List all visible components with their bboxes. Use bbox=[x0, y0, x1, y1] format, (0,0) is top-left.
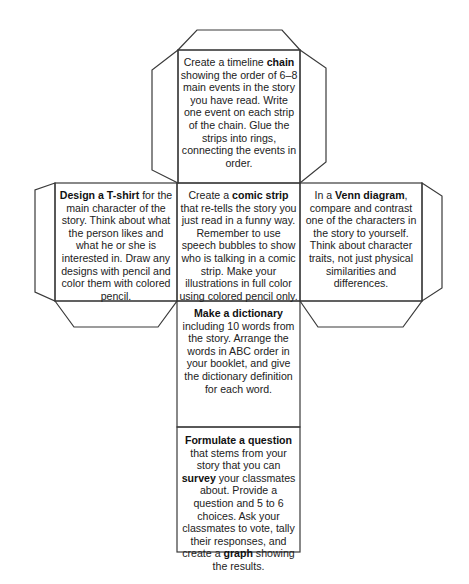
face-text: including 10 words from the story. Arran… bbox=[183, 320, 295, 395]
face-keyword: chain bbox=[267, 56, 295, 68]
face-text: Create a timeline bbox=[184, 56, 267, 68]
venn-diagram-face: In a Venn diagram, compare and contrast … bbox=[303, 185, 419, 301]
face-keyword: Design a T-shirt bbox=[60, 189, 139, 201]
top-left-flap bbox=[152, 50, 178, 183]
face-text: for the main character of the story. Thi… bbox=[61, 189, 172, 302]
face-keyword: comic strip bbox=[232, 189, 289, 201]
face-text: showing the order of 6–8 main events in … bbox=[181, 69, 298, 169]
comic-strip-face: Create a comic strip that re-tells the s… bbox=[177, 185, 300, 301]
face-text: In a bbox=[314, 189, 335, 201]
face-text: that re-tells the story you just read in… bbox=[179, 202, 297, 302]
dictionary-face: Make a dictionary including 10 words fro… bbox=[180, 303, 297, 427]
face-text: Create a bbox=[188, 189, 232, 201]
top-right-flap bbox=[300, 50, 326, 183]
face-keyword: graph bbox=[223, 547, 252, 559]
left-side-flap bbox=[35, 183, 55, 301]
left-bottom-flap bbox=[55, 301, 177, 327]
face-text: that stems from your story that you can bbox=[190, 447, 287, 472]
face-keyword: Make a dictionary bbox=[194, 307, 283, 319]
timeline-chain-face: Create a timeline chain showing the orde… bbox=[178, 52, 300, 183]
face-keyword: Venn diagram bbox=[335, 189, 404, 201]
right-side-flap bbox=[422, 183, 442, 301]
right-bottom-flap bbox=[300, 301, 422, 327]
face-keyword: Formulate a question bbox=[185, 434, 292, 446]
top-flap bbox=[178, 30, 300, 50]
survey-question-face: Formulate a question that stems from you… bbox=[177, 430, 300, 552]
face-text: , compare and contrast one of the charac… bbox=[306, 189, 417, 289]
tshirt-design-face: Design a T-shirt for the main character … bbox=[55, 185, 177, 301]
face-keyword: survey bbox=[182, 472, 216, 484]
face-text: your classmates about. Provide a questio… bbox=[182, 472, 295, 560]
